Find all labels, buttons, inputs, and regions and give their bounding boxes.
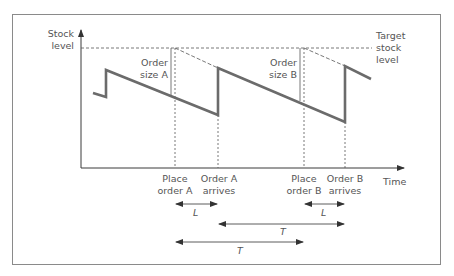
lead-time-a-label: L	[193, 207, 198, 219]
cycle-t-label-1: T	[280, 226, 286, 238]
order-size-b-label: Order size B	[259, 57, 297, 81]
projection-a	[175, 48, 218, 68]
lead-time-b-label: L	[321, 207, 326, 219]
event-place-order-b: Place order B	[284, 173, 324, 197]
x-axis-label: Time	[383, 176, 406, 188]
target-stock-label: Target stock level	[376, 30, 405, 66]
event-place-order-a: Place order A	[155, 173, 195, 197]
event-order-b-arrives: Order B arrives	[324, 173, 366, 197]
cycle-t-label-2: T	[237, 245, 243, 257]
order-size-a-label: Order size A	[130, 57, 168, 81]
projection-b	[304, 48, 345, 66]
event-order-a-arrives: Order A arrives	[198, 173, 240, 197]
y-axis-label: Stock level	[38, 28, 74, 52]
